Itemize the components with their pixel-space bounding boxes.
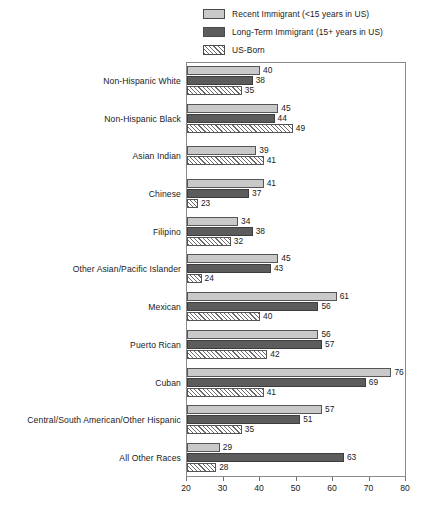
x-axis-tick-label: 50: [291, 483, 301, 493]
bar-us-born: 28: [187, 463, 429, 472]
bar-value-label: 35: [245, 425, 254, 434]
bar-group: Non-Hispanic White403835: [0, 62, 429, 100]
bar-rect: [187, 114, 275, 123]
bar-rect: [187, 237, 231, 246]
bar-group: Other Asian/Pacific Islander454324: [0, 251, 429, 289]
bar-long-term-immigrant: 57: [187, 340, 429, 349]
bar-rect: [187, 124, 293, 133]
x-axis-tick-label: 20: [181, 483, 191, 493]
bar-long-term-immigrant: 51: [187, 415, 429, 424]
bar-group: Non-Hispanic Black454449: [0, 100, 429, 138]
bar-set: 575135: [187, 401, 429, 443]
category-label: Non-Hispanic Black: [104, 114, 181, 124]
bar-rect: [187, 264, 271, 273]
bar-set: 565742: [187, 326, 429, 368]
bar-set: 454324: [187, 251, 429, 293]
bar-group: Chinese413723: [0, 175, 429, 213]
bar-value-label: 24: [205, 274, 214, 283]
bar-us-born: 41: [187, 388, 429, 397]
x-axis: 20304050607080: [186, 477, 406, 503]
bar-groups: Non-Hispanic White403835Non-Hispanic Bla…: [0, 62, 429, 477]
bar-group: Cuban766941: [0, 364, 429, 402]
bar-value-label: 43: [274, 264, 283, 273]
bar-rect: [187, 350, 267, 359]
legend-item-label: Long-Term Immigrant (15+ years in US): [232, 27, 383, 37]
bar-long-term-immigrant: 38: [187, 227, 429, 236]
bar-rect: [187, 340, 322, 349]
x-axis-tick: [332, 477, 333, 481]
bar-rect: [187, 104, 278, 113]
category-label: Central/South American/Other Hispanic: [27, 415, 181, 425]
bar-rect: [187, 415, 300, 424]
bar-value-label: 57: [325, 340, 334, 349]
dark-gray-square-icon: [203, 27, 225, 37]
bar-value-label: 61: [340, 292, 349, 301]
bar-recent-immigrant: 34: [187, 217, 429, 226]
bar-rect: [187, 199, 198, 208]
bar-set: 766941: [187, 364, 429, 406]
hatched-square-icon: [203, 45, 225, 55]
bar-long-term-immigrant: 38: [187, 76, 429, 85]
bar-us-born: 41: [187, 156, 429, 165]
bar-group: Filipino343832: [0, 213, 429, 251]
bar-rect: [187, 425, 242, 434]
bar-rect: [187, 453, 344, 462]
bar-value-label: 34: [241, 217, 250, 226]
bar-value-label: 63: [347, 453, 356, 462]
bar-value-label: 32: [234, 237, 243, 246]
light-gray-square-icon: [203, 9, 225, 19]
category-label: Mexican: [148, 302, 181, 312]
category-label: Asian Indian: [133, 151, 182, 161]
bar-value-label: 41: [267, 388, 276, 397]
bar-recent-immigrant: 57: [187, 405, 429, 414]
category-label: Filipino: [153, 227, 181, 237]
bar-set: 413723: [187, 175, 429, 217]
bar-set: 454449: [187, 100, 429, 142]
x-axis-tick-label: 80: [400, 483, 410, 493]
bar-rect: [187, 330, 318, 339]
bar-long-term-immigrant: 43: [187, 264, 429, 273]
bar-group: All Other Races296328: [0, 439, 429, 477]
bar-value-label: 28: [219, 463, 228, 472]
bar-long-term-immigrant: 37: [187, 189, 429, 198]
bar-recent-immigrant: 39: [187, 146, 429, 155]
bar-chart: Non-Hispanic White403835Non-Hispanic Bla…: [0, 58, 429, 505]
x-axis-tick: [223, 477, 224, 481]
bar-rect: [187, 443, 220, 452]
bar-value-label: 76: [394, 368, 403, 377]
bar-group: Puerto Rican565742: [0, 326, 429, 364]
bar-rect: [187, 217, 238, 226]
bar-rect: [187, 405, 322, 414]
bar-value-label: 56: [321, 302, 330, 311]
bar-us-born: 49: [187, 124, 429, 133]
bar-us-born: 42: [187, 350, 429, 359]
bar-rect: [187, 66, 260, 75]
bar-value-label: 38: [256, 227, 265, 236]
bar-rect: [187, 368, 391, 377]
bar-long-term-immigrant: 44: [187, 114, 429, 123]
bar-us-born: 23: [187, 199, 429, 208]
category-label: Other Asian/Pacific Islander: [73, 264, 181, 274]
x-axis-tick-label: 70: [364, 483, 374, 493]
bar-recent-immigrant: 76: [187, 368, 429, 377]
bar-us-born: 35: [187, 425, 429, 434]
bar-rect: [187, 179, 264, 188]
bar-value-label: 29: [223, 443, 232, 452]
bar-rect: [187, 274, 202, 283]
bar-value-label: 37: [252, 189, 261, 198]
bar-value-label: 41: [267, 156, 276, 165]
x-axis-tick: [405, 477, 406, 481]
bar-group: Mexican615640: [0, 288, 429, 326]
x-axis-tick-label: 60: [327, 483, 337, 493]
legend-item-label: US-Born: [232, 45, 265, 55]
bar-recent-immigrant: 40: [187, 66, 429, 75]
x-axis-tick: [259, 477, 260, 481]
bar-rect: [187, 463, 216, 472]
category-label: Chinese: [149, 189, 181, 199]
bar-value-label: 51: [303, 415, 312, 424]
bar-rect: [187, 76, 253, 85]
bar-rect: [187, 312, 260, 321]
bar-value-label: 41: [267, 179, 276, 188]
bar-group: Asian Indian3941: [0, 137, 429, 175]
bar-rect: [187, 189, 249, 198]
